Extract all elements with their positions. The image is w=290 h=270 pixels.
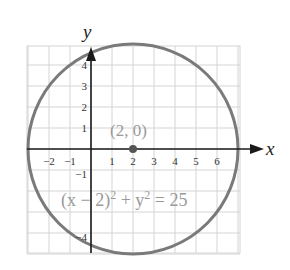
graph-canvas: −2−1123456 4321−1−4 x y (2, 0) (x − 2)2 …: [0, 0, 290, 270]
y-tick-label: −1: [75, 168, 87, 180]
x-tick-label: 1: [109, 155, 115, 167]
x-tick-labels: −2−1123456: [43, 155, 220, 167]
equation-part-3: = 25: [150, 190, 187, 210]
x-tick-label: 2: [130, 155, 136, 167]
x-tick-label: 3: [151, 155, 157, 167]
x-tick-label: 5: [193, 155, 199, 167]
y-tick-label: 1: [82, 122, 88, 134]
circle-graph-figure: −2−1123456 4321−1−4 x y (2, 0) (x − 2)2 …: [0, 0, 290, 270]
x-axis-label: x: [265, 138, 275, 159]
y-tick-label: 3: [82, 80, 88, 92]
equation-part-2: + y: [116, 190, 144, 210]
y-axis-label: y: [81, 21, 92, 42]
axes: [27, 47, 264, 253]
y-tick-label: −4: [75, 231, 87, 243]
y-tick-label: 4: [82, 59, 88, 71]
y-tick-labels: 4321−1−4: [75, 59, 87, 243]
y-tick-label: 2: [82, 101, 88, 113]
circle-equation-label: (x − 2)2 + y2 = 25: [61, 188, 187, 211]
center-point-marker: [129, 145, 137, 153]
x-axis-arrow-icon: [250, 144, 264, 154]
equation-part-1: (x − 2): [61, 190, 110, 211]
x-tick-label: −2: [43, 155, 55, 167]
x-tick-label: 4: [172, 155, 178, 167]
center-point-label: (2, 0): [110, 121, 147, 140]
x-tick-label: 6: [214, 155, 220, 167]
x-tick-label: −1: [64, 155, 76, 167]
